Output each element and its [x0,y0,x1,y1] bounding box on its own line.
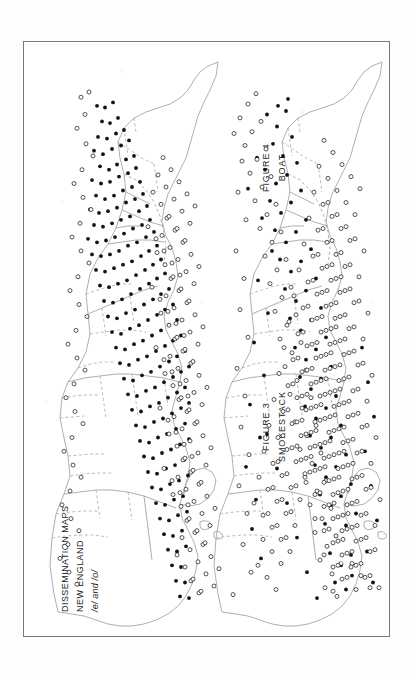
open-circle [339,227,343,231]
open-circle [341,441,345,445]
open-circle [296,332,300,336]
open-circle [297,268,301,272]
filled-dot [286,97,290,101]
filled-dot [126,244,130,248]
open-circle [319,451,323,455]
filled-dot [126,392,130,396]
open-circle [351,437,355,441]
open-circle [331,517,335,521]
filled-dot [180,529,184,533]
filled-dot [96,135,100,139]
filled-dot [159,292,163,296]
open-circle [238,116,242,120]
open-circle [266,487,270,491]
open-circle [333,316,337,320]
open-circle [280,296,284,300]
open-circle [301,306,305,310]
open-circle [347,351,351,355]
open-circle [304,408,308,412]
open-circle [335,213,339,217]
filled-dot [133,308,137,312]
open-circle [313,420,317,424]
open-circle [315,316,319,320]
filled-dot [117,249,121,253]
filled-dot [124,158,128,162]
open-circle [314,380,318,384]
open-circle [279,230,283,234]
open-circle [355,451,359,455]
scan-speck [90,620,93,623]
filled-dot [323,522,327,526]
open-circle [350,477,354,481]
open-circle [346,487,350,491]
open-circle [316,252,320,256]
open-circle [332,404,336,408]
open-circle [309,396,313,400]
open-circle [62,449,66,453]
filled-dot [250,527,254,531]
open-circle [274,588,278,592]
open-circle [275,524,279,528]
open-circle [359,537,363,541]
filled-dot [100,120,104,124]
open-circle [309,455,313,459]
open-circle [76,275,80,279]
filled-dot [260,216,264,220]
filled-dot [111,301,115,305]
filled-dot [124,201,128,205]
open-circle [171,275,175,279]
open-circle [338,315,342,319]
open-circle [356,387,360,391]
filled-dot [122,128,126,132]
filled-dot [130,185,134,189]
filled-dot [147,282,151,286]
open-circle [369,486,373,490]
open-circle [340,553,344,557]
open-circle [231,593,235,597]
open-circle [175,335,179,339]
filled-dot [118,361,122,365]
filled-dot [299,189,303,193]
open-circle [334,325,338,329]
open-circle [279,562,283,566]
open-circle [294,313,298,317]
open-circle [179,287,183,291]
open-circle [295,396,299,400]
open-circle [288,392,292,396]
filled-dot [122,232,126,236]
open-circle [234,249,238,253]
filled-dot [103,270,107,274]
open-circle [323,586,327,590]
open-circle [348,263,352,267]
open-circle [318,442,322,446]
open-circle [310,342,314,346]
open-circle [281,410,285,414]
open-circle [255,157,259,161]
open-circle [270,525,274,529]
filled-dot [157,401,161,405]
filled-dot [115,206,119,210]
filled-dot [252,341,256,345]
open-circle [66,342,70,346]
filled-dot [159,329,163,333]
filled-dot [169,448,173,452]
filled-dot [289,201,293,205]
open-circle [186,394,190,398]
open-circle [326,176,330,180]
open-circle [315,292,319,296]
filled-dot [246,187,250,191]
filled-dot [344,588,348,592]
open-circle [70,235,74,239]
open-circle [317,164,321,168]
open-circle [331,541,335,545]
open-circle [284,536,288,540]
filled-dot [161,417,165,421]
open-circle [299,458,303,462]
filled-dot [132,342,136,346]
open-circle [303,472,307,476]
filled-dot [299,259,303,263]
filled-dot [294,299,298,303]
open-circle [329,351,333,355]
open-circle [373,524,377,528]
open-circle [331,151,335,155]
